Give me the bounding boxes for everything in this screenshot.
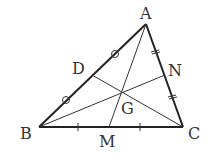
label-m: M [99, 132, 115, 151]
label-c: C [188, 124, 200, 143]
triangle-diagram: A B C D N M G [0, 0, 215, 162]
label-g: G [121, 99, 134, 118]
label-a: A [139, 4, 152, 23]
label-b: B [20, 124, 32, 143]
label-n: N [168, 61, 182, 80]
median-bn [39, 75, 165, 127]
median-cd [92, 75, 183, 127]
label-d: D [72, 59, 85, 78]
